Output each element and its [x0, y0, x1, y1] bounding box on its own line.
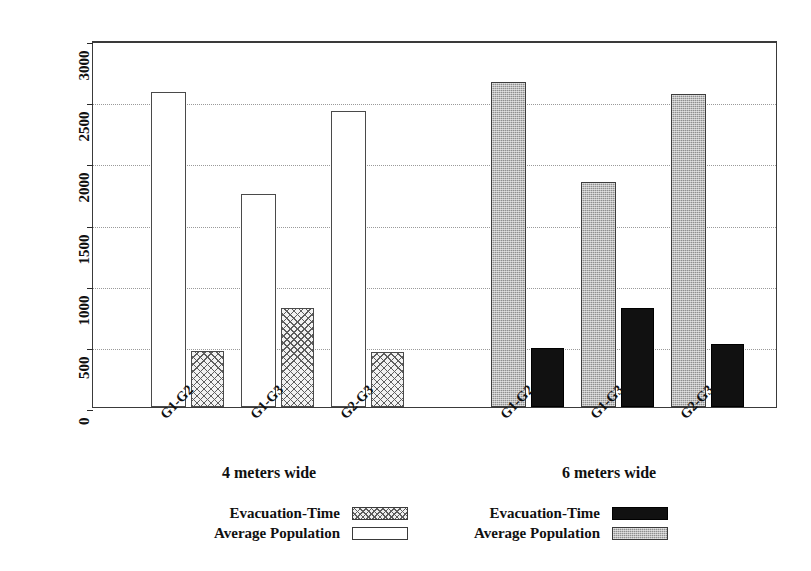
- y-tick-label: 3000: [77, 51, 92, 81]
- y-tick-label: 1500: [77, 234, 92, 264]
- legend-item: Average Population: [420, 523, 668, 543]
- bar-average-population: [491, 82, 526, 407]
- bar-average-population: [671, 94, 706, 407]
- y-tick-mark: [87, 165, 93, 166]
- legend-swatch-solid-black-icon: [612, 507, 668, 520]
- bar-average-population: [581, 182, 616, 407]
- y-axis-title: Population/Evacuation-Time: [8, 0, 36, 68]
- y-tick-mark: [87, 349, 93, 350]
- legend-label-evacuation-time: Evacuation-Time: [489, 503, 600, 523]
- group-label-6-meters: 6 meters wide: [562, 464, 656, 482]
- legend-label-average-population: Average Population: [214, 523, 340, 543]
- legend-4-meters: Evacuation-Time Average Population: [160, 503, 408, 543]
- plot-area: 300025002000150010005000: [92, 41, 777, 408]
- legend-6-meters: Evacuation-Time Average Population: [420, 503, 668, 543]
- y-tick-mark: [87, 227, 93, 228]
- bar-average-population: [241, 194, 276, 407]
- bar-evacuation-time: [711, 344, 744, 407]
- legend-swatch-cross-hatch-icon: [352, 507, 408, 520]
- y-tick-mark: [87, 43, 93, 44]
- bar-evacuation-time: [371, 352, 404, 407]
- legend-item: Average Population: [160, 523, 408, 543]
- bar-evacuation-time: [191, 351, 224, 407]
- legend-swatch-white-outline-icon: [352, 527, 408, 540]
- bar-chart: Population/Evacuation-Time 3000250020001…: [0, 0, 811, 571]
- bar-average-population: [151, 92, 186, 407]
- y-tick-label: 0: [77, 418, 92, 426]
- y-tick-label: 500: [77, 356, 92, 379]
- y-tick-label: 1000: [77, 295, 92, 325]
- y-tick-mark: [87, 410, 93, 411]
- legend-label-average-population: Average Population: [474, 523, 600, 543]
- y-tick-label: 2500: [77, 112, 92, 142]
- legend-item: Evacuation-Time: [160, 503, 408, 523]
- y-tick-mark: [87, 104, 93, 105]
- group-label-4-meters: 4 meters wide: [222, 464, 316, 482]
- legend-item: Evacuation-Time: [420, 503, 668, 523]
- bar-average-population: [331, 111, 366, 407]
- bar-evacuation-time: [531, 348, 564, 407]
- legend-label-evacuation-time: Evacuation-Time: [229, 503, 340, 523]
- legend-swatch-gray-stipple-icon: [612, 527, 668, 540]
- y-tick-mark: [87, 288, 93, 289]
- y-tick-label: 2000: [77, 173, 92, 203]
